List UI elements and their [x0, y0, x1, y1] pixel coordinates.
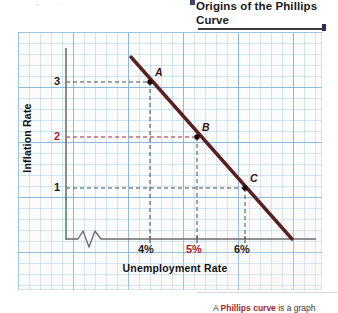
caption-term: Phillips curve [221, 303, 276, 313]
caption-prefix: A [213, 303, 221, 313]
data-point-b [194, 134, 199, 139]
x-tick-label-6pct: 6% [234, 243, 250, 255]
y-tick-label-2: 2 [54, 130, 60, 142]
phillips-curve-line [131, 57, 292, 239]
x-tick-label-4pct: 4% [138, 243, 154, 255]
axis-break-zigzag-icon [78, 231, 101, 247]
point-label-c: C [250, 172, 258, 184]
caption-divider [196, 292, 338, 293]
data-point-a [147, 79, 152, 84]
y-tick-label-3: 3 [54, 75, 60, 87]
caption-suffix: is a graph [276, 303, 316, 313]
caption-text: A Phillips curve is a graph [213, 303, 338, 313]
y-axis-title: Inflation Rate [21, 92, 33, 184]
x-tick-label-5pct: 5% [186, 243, 202, 255]
data-point-c [242, 185, 247, 190]
x-axis-title: Unemployment Rate [80, 262, 270, 274]
y-tick-label-1: 1 [54, 181, 60, 193]
point-label-a: A [155, 66, 163, 78]
point-label-b: B [202, 121, 210, 133]
